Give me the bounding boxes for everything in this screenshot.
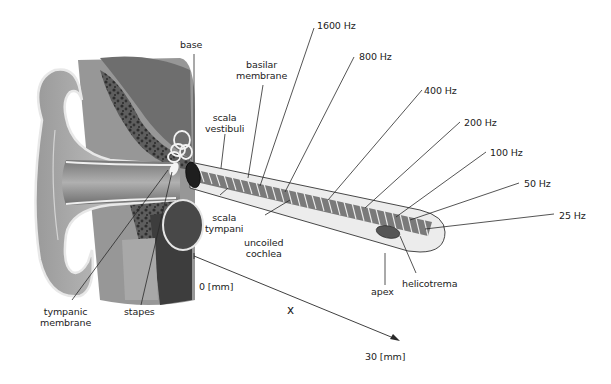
label-uncoiled-cochlea-line2: cochlea [244,248,283,259]
label-freq-200: 200 Hz [464,117,497,128]
label-helicotrema: helicotrema [402,278,457,289]
axis-variable-label: x [287,305,294,316]
label-freq-100: 100 Hz [490,147,523,158]
uncoiled-cochlea-tube [183,161,445,252]
label-scala-vestibuli: scala vestibuli [205,112,244,134]
cochlea-diagram: base basilar membrane scala vestibuli sc… [0,0,611,384]
ear-illustration [35,57,203,306]
label-freq-50: 50 Hz [524,178,551,189]
label-scala-tympani-line1: scala [205,212,243,223]
label-basilar-membrane-line2: membrane [236,70,287,81]
axis-start-label: 0 [mm] [199,281,233,292]
label-tympanic-membrane-line1: tympanic [40,306,91,317]
label-scala-vestibuli-line2: vestibuli [205,123,244,134]
label-freq-1600: 1600 Hz [317,20,356,31]
label-scala-tympani-line2: tympani [205,223,243,234]
label-scala-tympani: scala tympani [205,212,243,234]
label-uncoiled-cochlea-line1: uncoiled [244,237,283,248]
axis-end-label: 30 [mm] [365,351,405,362]
label-base: base [180,39,202,50]
label-scala-vestibuli-line1: scala [205,112,244,123]
label-freq-400: 400 Hz [424,85,457,96]
x-axis-arrow [194,253,400,341]
label-freq-800: 800 Hz [359,51,392,62]
diagram-graphic [0,0,611,384]
label-tympanic-membrane: tympanic membrane [40,306,91,328]
label-uncoiled-cochlea: uncoiled cochlea [244,237,283,259]
label-stapes: stapes [124,306,155,317]
label-basilar-membrane: basilar membrane [236,59,287,81]
label-freq-25: 25 Hz [559,210,586,221]
label-apex: apex [371,286,394,297]
label-basilar-membrane-line1: basilar [236,59,287,70]
label-tympanic-membrane-line2: membrane [40,317,91,328]
